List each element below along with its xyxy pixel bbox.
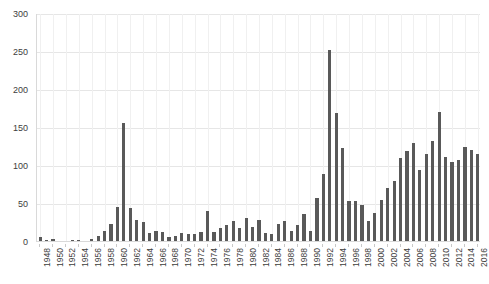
x-axis-tick <box>387 244 388 247</box>
x-axis-tick <box>374 244 375 247</box>
bar <box>341 148 344 241</box>
x-axis-tick <box>284 244 285 247</box>
bar <box>238 228 241 241</box>
bar <box>257 220 260 241</box>
x-axis-labels: 1948195019521954195619581960196219641966… <box>36 244 480 284</box>
y-axis-tick-label: 250 <box>13 48 28 57</box>
bar <box>142 222 145 241</box>
y-axis-tick-label: 100 <box>13 162 28 171</box>
bar <box>161 232 164 241</box>
x-axis-tick-label: 1988 <box>300 248 309 267</box>
bar <box>90 239 93 241</box>
bar <box>103 231 106 241</box>
bar <box>315 198 318 241</box>
x-axis-tick-label: 1962 <box>133 248 142 267</box>
x-axis-tick <box>412 244 413 247</box>
bar <box>39 237 42 241</box>
bar <box>232 221 235 241</box>
bar <box>380 200 383 241</box>
bar <box>431 141 434 241</box>
x-axis-tick <box>65 244 66 247</box>
x-axis-tick-label: 2000 <box>377 248 386 267</box>
y-axis-tick-label: 50 <box>18 200 28 209</box>
x-axis-tick-label: 1954 <box>81 248 90 267</box>
bar <box>277 224 280 241</box>
bar <box>418 170 421 241</box>
bar <box>347 201 350 241</box>
x-axis-tick-label: 1968 <box>171 248 180 267</box>
bar <box>116 207 119 241</box>
bar <box>322 174 325 241</box>
bar <box>393 181 396 241</box>
x-axis-tick <box>464 244 465 247</box>
x-axis-tick <box>104 244 105 247</box>
x-axis-tick <box>400 244 401 247</box>
x-axis-tick-label: 1970 <box>184 248 193 267</box>
x-axis-tick <box>258 244 259 247</box>
bar <box>412 143 415 241</box>
plot-area <box>36 14 480 242</box>
bar <box>174 236 177 241</box>
x-axis-tick <box>142 244 143 247</box>
x-axis-tick-label: 1984 <box>274 248 283 267</box>
bar <box>122 123 125 241</box>
y-axis-tick-label: 150 <box>13 124 28 133</box>
x-axis-tick-label: 1990 <box>313 248 322 267</box>
x-axis-tick-label: 1952 <box>68 248 77 267</box>
bar <box>302 214 305 241</box>
bar <box>360 205 363 241</box>
x-axis-tick <box>335 244 336 247</box>
bar <box>367 221 370 241</box>
bar <box>225 225 228 241</box>
x-axis-tick <box>477 244 478 247</box>
bar <box>290 231 293 241</box>
bar <box>97 236 100 241</box>
x-axis-tick <box>438 244 439 247</box>
y-axis-tick-label: 300 <box>13 10 28 19</box>
x-axis-tick <box>245 244 246 247</box>
x-axis-tick <box>168 244 169 247</box>
bar <box>399 158 402 241</box>
x-axis-tick-label: 1982 <box>262 248 271 267</box>
x-axis-tick-label: 2012 <box>455 248 464 267</box>
x-axis-tick <box>181 244 182 247</box>
x-axis-tick-label: 2014 <box>467 248 476 267</box>
x-axis-tick <box>348 244 349 247</box>
bar <box>425 154 428 241</box>
x-axis-tick-label: 1956 <box>94 248 103 267</box>
x-axis-tick <box>271 244 272 247</box>
x-axis-tick <box>194 244 195 247</box>
x-axis-tick <box>425 244 426 247</box>
bar <box>187 234 190 241</box>
bar <box>251 227 254 241</box>
x-axis-tick-label: 1948 <box>43 248 52 267</box>
bar <box>154 231 157 241</box>
bar <box>180 233 183 241</box>
x-axis-tick <box>39 244 40 247</box>
bar <box>109 224 112 241</box>
bar-series <box>37 14 480 241</box>
y-axis-tick-label: 200 <box>13 86 28 95</box>
x-axis-tick <box>52 244 53 247</box>
bar <box>386 188 389 241</box>
bar <box>457 160 460 241</box>
bar <box>309 231 312 241</box>
bar <box>470 150 473 241</box>
x-axis-tick-label: 1958 <box>107 248 116 267</box>
x-axis-tick <box>116 244 117 247</box>
x-axis-tick <box>155 244 156 247</box>
bar <box>373 213 376 241</box>
bar <box>199 232 202 241</box>
y-axis-labels: 050100150200250300 <box>0 0 32 284</box>
x-axis-tick-label: 1998 <box>364 248 373 267</box>
bar <box>245 218 248 241</box>
bar <box>354 201 357 241</box>
bar <box>129 208 132 241</box>
x-axis-tick-label: 1980 <box>249 248 258 267</box>
bar <box>206 211 209 241</box>
bar <box>283 221 286 241</box>
bar <box>438 112 441 241</box>
x-axis-tick <box>219 244 220 247</box>
x-axis-tick-label: 1960 <box>120 248 129 267</box>
